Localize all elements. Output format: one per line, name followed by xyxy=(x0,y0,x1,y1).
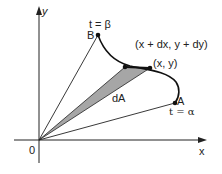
point-A-param-label: t = α xyxy=(169,107,195,117)
point-P xyxy=(148,66,153,71)
region-dA-label: dA xyxy=(112,93,125,104)
chord-segment xyxy=(125,67,150,68)
point-Q-label: (x + dx, y + dy) xyxy=(135,39,208,50)
point-Q xyxy=(123,65,128,70)
x-axis-arrow-icon xyxy=(198,137,207,143)
y-axis-label: y xyxy=(42,6,48,17)
point-B-label: B xyxy=(87,30,94,41)
point-B xyxy=(96,33,101,38)
radius-to-A xyxy=(39,103,175,140)
x-axis-label: x xyxy=(199,146,205,157)
point-P-label: (x, y) xyxy=(153,58,177,69)
origin-label: 0 xyxy=(29,145,35,156)
parametric-area-diagram: y x 0 t = β B (x + dx, y + dy) (x, y) dA… xyxy=(0,0,222,174)
radius-to-B xyxy=(39,35,98,140)
shaded-sector-da xyxy=(39,67,150,140)
